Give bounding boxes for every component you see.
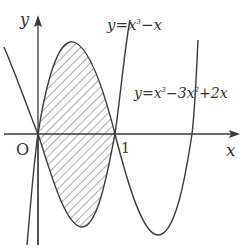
- eq2-rest: +2x: [199, 85, 228, 101]
- equation-label-cubic-2: y=x3−3x2+2x: [134, 85, 228, 101]
- origin-label: O: [16, 140, 29, 159]
- eq2-lhs: y=x: [134, 85, 162, 101]
- tick-label-1: 1: [121, 140, 130, 156]
- shaded-region: [30, 35, 125, 235]
- y-axis-label: y: [20, 10, 29, 29]
- eq1-rest: −x: [141, 16, 162, 34]
- eq2-mid: −3x: [166, 85, 195, 101]
- eq1-lhs: y=x: [107, 16, 137, 34]
- diagram-canvas: [0, 0, 244, 251]
- x-axis-label: x: [226, 140, 236, 160]
- equation-label-cubic-1: y=x3−x: [107, 16, 162, 34]
